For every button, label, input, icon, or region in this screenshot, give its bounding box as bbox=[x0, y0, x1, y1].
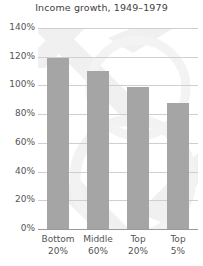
bar bbox=[87, 71, 109, 229]
bar-series bbox=[38, 28, 198, 229]
y-tick-label: 140% bbox=[0, 22, 35, 32]
y-tick-label: 20% bbox=[0, 194, 35, 204]
bar bbox=[47, 58, 69, 229]
chart-title: Income growth, 1949–1979 bbox=[0, 2, 203, 13]
plot-area bbox=[38, 28, 198, 229]
x-tick-label: Top5% bbox=[155, 234, 201, 257]
bar bbox=[167, 103, 189, 229]
y-tick-label: 60% bbox=[0, 137, 35, 147]
y-tick-label: 80% bbox=[0, 108, 35, 118]
y-tick-label: 0% bbox=[0, 223, 35, 233]
chart-screenshot: Income growth, 1949–1979 0%20%40%60%80%1… bbox=[0, 0, 203, 266]
x-tick-label-line2: 5% bbox=[155, 246, 201, 258]
y-tick-label: 100% bbox=[0, 79, 35, 89]
bar bbox=[127, 87, 149, 229]
x-tick-label-line1: Top bbox=[155, 234, 201, 246]
gridline bbox=[38, 229, 198, 230]
y-tick-label: 120% bbox=[0, 51, 35, 61]
y-tick-label: 40% bbox=[0, 166, 35, 176]
